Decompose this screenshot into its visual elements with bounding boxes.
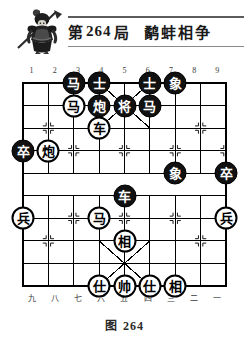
red-chariot[interactable]: 车 — [88, 117, 111, 140]
red-cannon[interactable]: 炮 — [37, 139, 60, 162]
red-advisor[interactable]: 仕 — [88, 275, 111, 298]
file-coordinates-top: 123456789 — [20, 64, 229, 77]
file-label-top-9: 9 — [206, 64, 229, 77]
page-header: 第 264 局 鹬蚌相争 — [0, 0, 249, 56]
black-horse[interactable]: 马 — [138, 94, 161, 117]
file-label-top-1: 1 — [20, 64, 43, 77]
black-cannon[interactable]: 炮 — [88, 94, 111, 117]
title-prefix: 第 — [68, 21, 84, 42]
red-general[interactable]: 帅 — [113, 275, 136, 298]
page-title: 第 264 局 鹬蚌相争 — [68, 18, 244, 44]
caption-prefix: 图 — [105, 319, 118, 333]
file-label-bottom-1: 九 — [20, 292, 43, 305]
red-horse[interactable]: 马 — [88, 207, 111, 230]
red-pawn[interactable]: 兵 — [215, 207, 238, 230]
file-label-bottom-9: 一 — [206, 292, 229, 305]
file-label-top-8: 8 — [183, 64, 206, 77]
red-horse[interactable]: 马 — [62, 94, 85, 117]
red-pawn[interactable]: 兵 — [12, 207, 35, 230]
title-number: 264 — [84, 23, 114, 40]
black-advisor[interactable]: 士 — [138, 72, 161, 95]
black-chariot[interactable]: 车 — [113, 184, 136, 207]
red-minister[interactable]: 相 — [113, 229, 136, 252]
puzzle-name: 鹬蚌相争 — [130, 21, 212, 42]
black-elephant[interactable]: 象 — [164, 162, 187, 185]
xiangqi-board[interactable]: 马士士象马炮将马车卒炮象卒车兵马兵相仕帅仕相 — [20, 80, 229, 289]
file-label-bottom-8: 二 — [183, 292, 206, 305]
warrior-general-icon — [16, 8, 66, 54]
file-label-top-5: 5 — [113, 64, 136, 77]
black-pawn[interactable]: 卒 — [12, 139, 35, 162]
black-general[interactable]: 将 — [113, 94, 136, 117]
black-elephant[interactable]: 象 — [164, 72, 187, 95]
figure-caption: 图 264 — [0, 316, 249, 334]
title-divider-bottom — [68, 46, 244, 47]
red-minister[interactable]: 相 — [164, 275, 187, 298]
black-horse[interactable]: 马 — [62, 72, 85, 95]
caption-number: 264 — [123, 319, 144, 333]
file-label-bottom-2: 八 — [43, 292, 66, 305]
red-advisor[interactable]: 仕 — [138, 275, 161, 298]
file-label-bottom-3: 七 — [66, 292, 89, 305]
file-label-top-2: 2 — [43, 64, 66, 77]
title-suffix: 局 — [114, 21, 130, 42]
black-advisor[interactable]: 士 — [88, 72, 111, 95]
black-pawn[interactable]: 卒 — [215, 162, 238, 185]
